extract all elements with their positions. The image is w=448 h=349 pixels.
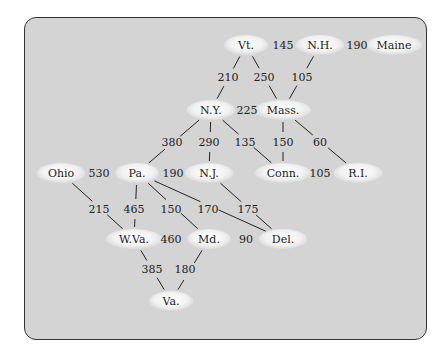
edge-vt-ny [233,56,239,68]
node-label: Md. [198,233,220,246]
edge-md-va [194,250,202,263]
edge-weight-label: 210 [218,71,239,84]
edge-vt-ny [217,86,224,98]
edge-ohio-wva [72,183,92,201]
edge-weight-label: 465 [124,203,145,216]
node-label: N.H. [307,39,333,52]
node-ri: R.I. [334,163,383,183]
edge-pa-wva [136,185,137,199]
node-nh: N.H. [296,35,345,55]
node-vt: Vt. [224,35,268,55]
node-pa: Pa. [115,163,159,183]
edge-weight-label: 290 [199,136,220,149]
edge-pa-del [154,181,200,202]
edge-weight-label: 190 [347,39,368,52]
edge-nh-mass [307,56,314,68]
node-mass: Mass. [255,100,311,120]
node-label: Pa. [129,167,146,180]
edge-weight-label: 225 [237,104,258,117]
node-label: N.Y. [200,104,222,117]
node-label: Del. [272,233,294,246]
edge-vt-mass [269,86,276,99]
edge-weight-label: 105 [310,167,331,180]
edge-weight-label: 170 [198,203,219,216]
node-md: Md. [187,229,231,249]
edge-weight-label: 380 [162,136,183,149]
edge-weight-label: 145 [273,39,294,52]
edge-ny-conn [254,147,272,162]
edge-nj-del [220,183,241,201]
node-maine: Maine [366,35,422,55]
edge-mass-ri [328,148,346,163]
node-ohio: Ohio [37,163,86,183]
edge-wva-va [141,250,147,260]
edge-nj-del [256,215,271,229]
edge-weight-label: 250 [254,71,275,84]
edge-vt-mass [253,56,260,68]
node-label: Va. [162,295,180,308]
edge-pa-md [181,213,198,229]
edge-md-va [178,280,184,290]
node-ny: N.Y. [187,100,236,120]
edge-weight-label: 385 [142,263,163,276]
node-label: W.Va. [119,233,149,246]
node-label: N.J. [199,167,218,180]
node-label: Vt. [237,39,254,52]
edge-weight-label: 180 [175,263,196,276]
edge-weight-label: 150 [161,203,182,216]
edge-ny-pa [149,149,165,163]
node-label: Mass. [267,104,300,117]
edge-weight-label: 530 [89,167,110,180]
edge-ny-pa [180,120,199,136]
node-label: Ohio [48,167,75,180]
node-label: Conn. [267,167,300,180]
edge-wva-va [157,278,164,290]
node-va: Va. [149,291,193,311]
edge-weight-label: 90 [239,233,253,246]
edge-weight-label: 460 [161,233,182,246]
edge-weight-label: 105 [292,71,313,84]
state-distance-graph: Vt.N.H.MaineN.Y.Mass.OhioPa.N.J.Conn.R.I… [0,0,448,349]
node-label: Maine [377,39,412,52]
edge-weight-label: 60 [313,136,327,149]
edge-pa-md [148,183,166,199]
edge-weight-label: 215 [89,203,110,216]
node-wva: W.Va. [106,229,162,249]
edge-weight-label: 135 [235,136,256,149]
edge-weight-label: 175 [238,203,259,216]
edge-weight-label: 150 [273,136,294,149]
node-del: Del. [259,229,308,249]
edge-weight-label: 190 [163,167,184,180]
node-nj: N.J. [185,163,234,183]
edge-nh-mass [290,86,297,99]
edge-mass-ri [295,120,313,135]
node-conn: Conn. [255,163,311,183]
edge-ohio-wva [107,215,122,229]
edge-ny-conn [223,120,239,134]
node-label: R.I. [348,167,368,180]
